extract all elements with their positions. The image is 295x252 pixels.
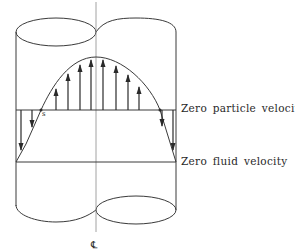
velocity-profile-diagram bbox=[0, 0, 295, 252]
zero-particle-velocity-label: Zero particle velocity bbox=[181, 102, 295, 114]
point-s-label: s bbox=[42, 110, 46, 118]
downward-arrowheads bbox=[19, 119, 176, 151]
point-right-marker bbox=[159, 109, 162, 112]
zero-fluid-velocity-label: Zero fluid velocity bbox=[181, 155, 288, 167]
centerline-symbol: ℄ bbox=[91, 239, 97, 250]
